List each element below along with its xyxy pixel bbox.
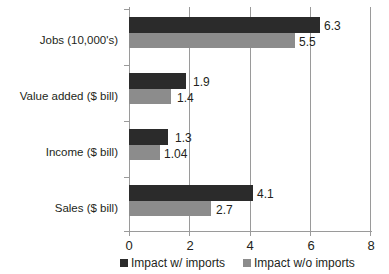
x-axis-label-8: 8: [359, 238, 383, 253]
value-label-jobs-with-imports: 6.3: [324, 20, 341, 33]
bar-income-without-imports: [129, 145, 160, 160]
x-axis-tick-4: [250, 231, 251, 236]
value-label-income-with-imports: 1.3: [175, 132, 192, 145]
bar-value-added-without-imports: [129, 89, 171, 104]
bar-jobs-with-imports: [129, 17, 320, 33]
value-label-value-added-with-imports: 1.9: [193, 76, 210, 89]
value-label-sales-with-imports: 4.1: [257, 188, 274, 201]
legend-label-impact-with-imports: Impact w/ imports: [131, 257, 225, 270]
category-label-jobs: Jobs (10,000's): [0, 34, 118, 47]
legend-item-impact-with-imports[interactable]: Impact w/ imports: [120, 257, 225, 270]
bar-value-added-with-imports: [129, 73, 186, 89]
category-axis-labels: Jobs (10,000's) Value added ($ bill) Inc…: [0, 10, 124, 232]
x-axis-label-4: 4: [238, 238, 262, 253]
x-axis-label-6: 6: [299, 238, 323, 253]
bar-sales-without-imports: [129, 201, 211, 216]
x-axis-tick-8: [370, 231, 371, 236]
legend-swatch-icon: [120, 259, 128, 267]
value-label-value-added-without-imports: 1.4: [177, 92, 194, 105]
gridline-8: [370, 7, 371, 232]
plot-area: 6.3 5.5 1.9 1.4 1.3 1.04 4.1 2.7: [129, 7, 371, 232]
value-label-income-without-imports: 1.04: [164, 148, 187, 161]
category-label-value-added: Value added ($ bill): [0, 90, 118, 103]
x-axis-label-0: 0: [117, 238, 141, 253]
value-label-jobs-without-imports: 5.5: [299, 36, 316, 49]
bar-income-with-imports: [129, 129, 168, 145]
legend-label-impact-without-imports: Impact w/o imports: [254, 257, 355, 270]
legend-swatch-icon: [243, 259, 251, 267]
bar-sales-with-imports: [129, 185, 253, 201]
category-label-income: Income ($ bill): [0, 146, 118, 159]
value-label-sales-without-imports: 2.7: [216, 204, 233, 217]
legend-item-impact-without-imports[interactable]: Impact w/o imports: [243, 257, 355, 270]
x-axis-tick-6: [310, 231, 311, 236]
x-axis-tick-2: [189, 231, 190, 236]
bar-chart: Jobs (10,000's) Value added ($ bill) Inc…: [0, 0, 389, 274]
x-axis-tick-0: [129, 231, 130, 236]
category-label-sales: Sales ($ bill): [0, 202, 118, 215]
chart-legend: Impact w/ imports Impact w/o imports: [120, 255, 385, 271]
x-axis-label-2: 2: [178, 238, 202, 253]
bar-jobs-without-imports: [129, 33, 295, 48]
